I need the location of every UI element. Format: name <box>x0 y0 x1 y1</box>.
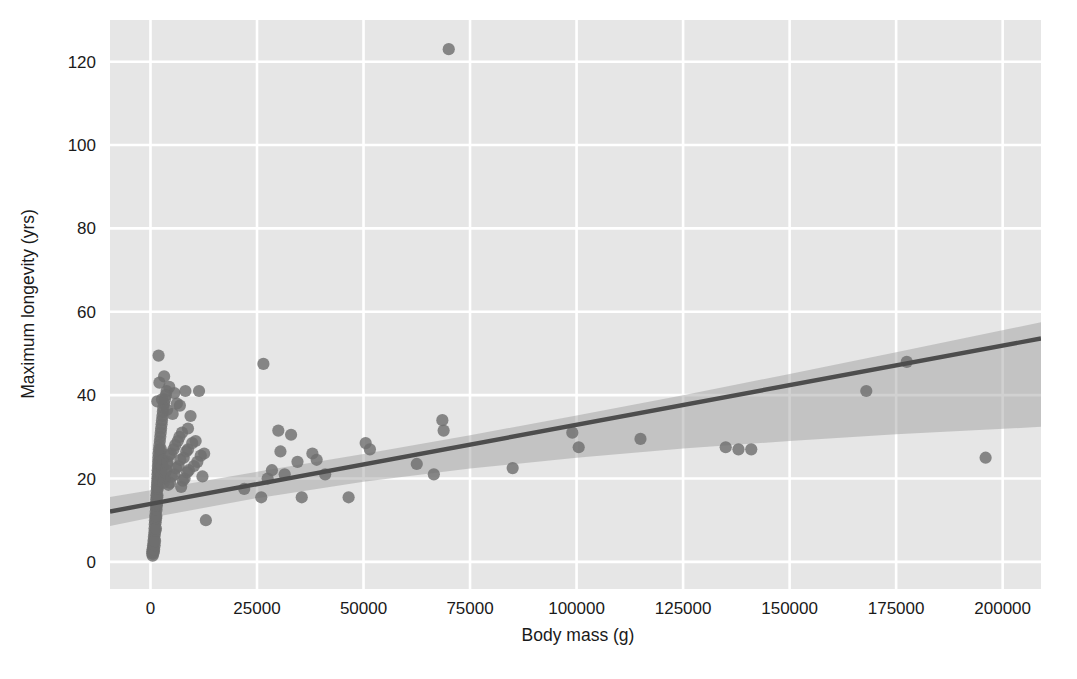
y-tick-label: 20 <box>77 470 96 489</box>
scatter-point <box>161 404 173 416</box>
scatter-point <box>151 395 163 407</box>
scatter-point <box>198 447 210 459</box>
scatter-point <box>428 468 440 480</box>
scatter-point <box>291 456 303 468</box>
y-axis-title: Maximum longevity (yrs) <box>18 209 38 399</box>
y-tick-label: 40 <box>77 386 96 405</box>
y-tick-label: 120 <box>68 53 96 72</box>
scatter-point <box>343 491 355 503</box>
scatter-point <box>311 454 323 466</box>
x-axis-title: Body mass (g) <box>522 625 635 645</box>
y-tick-label: 0 <box>87 553 96 572</box>
x-tick-label: 0 <box>146 599 155 618</box>
scatter-point <box>573 441 585 453</box>
scatter-point <box>274 445 286 457</box>
scatter-point <box>200 514 212 526</box>
scatter-point <box>296 491 308 503</box>
scatter-point <box>443 43 455 55</box>
x-tick-label: 100000 <box>548 599 605 618</box>
x-tick-label: 75000 <box>446 599 493 618</box>
scatter-point <box>182 422 194 434</box>
scatter-point <box>168 387 180 399</box>
x-tick-label: 200000 <box>974 599 1031 618</box>
scatter-point <box>266 464 278 476</box>
scatter-point <box>184 410 196 422</box>
scatter-point <box>507 462 519 474</box>
scatter-point <box>193 385 205 397</box>
scatter-point <box>174 399 186 411</box>
scatter-point <box>720 441 732 453</box>
scatter-point <box>436 414 448 426</box>
scatter-point <box>364 443 376 455</box>
y-tick-label: 60 <box>77 303 96 322</box>
scatter-point <box>196 470 208 482</box>
scatter-point <box>980 452 992 464</box>
x-tick-label: 25000 <box>233 599 280 618</box>
scatter-point <box>272 424 284 436</box>
scatter-point <box>438 424 450 436</box>
scatter-point <box>149 535 161 547</box>
figure-container: 0250005000075000100000125000150000175000… <box>0 0 1077 679</box>
x-tick-label: 150000 <box>761 599 818 618</box>
x-tick-label: 175000 <box>868 599 925 618</box>
x-tick-label: 50000 <box>340 599 387 618</box>
x-tick-label: 125000 <box>655 599 712 618</box>
scatter-point <box>257 358 269 370</box>
scatter-point <box>285 429 297 441</box>
scatter-point <box>152 349 164 361</box>
x-axis-tick-labels: 0250005000075000100000125000150000175000… <box>146 599 1031 618</box>
scatter-point <box>732 443 744 455</box>
scatter-point <box>255 491 267 503</box>
scatter-point <box>179 385 191 397</box>
scatter-point <box>634 433 646 445</box>
y-tick-label: 100 <box>68 136 96 155</box>
scatter-plot: 0250005000075000100000125000150000175000… <box>0 0 1077 679</box>
plot-panel <box>110 20 1041 589</box>
scatter-point <box>745 443 757 455</box>
scatter-point <box>411 458 423 470</box>
scatter-point <box>190 435 202 447</box>
scatter-point <box>860 385 872 397</box>
y-tick-label: 80 <box>77 219 96 238</box>
scatter-point <box>150 522 162 534</box>
